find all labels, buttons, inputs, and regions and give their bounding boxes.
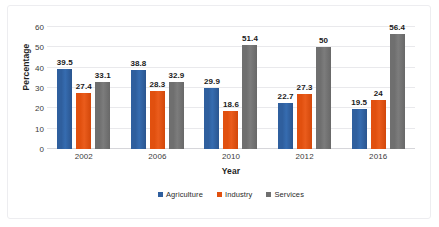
x-axis-title: Year — [47, 166, 415, 176]
bar-group: 39.527.433.1 — [47, 27, 121, 149]
bar-slot: 50 — [316, 27, 331, 149]
bar-services-2012[interactable] — [316, 47, 331, 149]
bar-value-label: 50 — [319, 36, 328, 45]
bar-agriculture-2012[interactable] — [278, 103, 293, 149]
bar-services-2006[interactable] — [169, 82, 184, 149]
bar-slot: 18.6 — [223, 27, 238, 149]
y-axis-tick: 50 — [24, 43, 44, 52]
legend-label: Services — [274, 190, 304, 199]
bar-value-label: 27.3 — [297, 83, 313, 92]
bar-slot: 51.4 — [242, 27, 257, 149]
bar-agriculture-2002[interactable] — [57, 69, 72, 149]
y-axis-tick: 20 — [24, 104, 44, 113]
bar-slot: 38.8 — [131, 27, 146, 149]
x-axis-tick-2016: 2016 — [369, 152, 387, 161]
bar-value-label: 19.5 — [351, 98, 367, 107]
bar-slot: 29.9 — [204, 27, 219, 149]
bar-group: 29.918.651.4 — [194, 27, 268, 149]
bar-slot: 56.4 — [390, 27, 405, 149]
y-axis-tick: 40 — [24, 63, 44, 72]
x-axis-tick-2012: 2012 — [295, 152, 313, 161]
bar-group: 19.52456.4 — [341, 27, 415, 149]
y-axis-tick: 0 — [24, 145, 44, 154]
bar-agriculture-2016[interactable] — [352, 109, 367, 149]
bar-value-label: 33.1 — [95, 71, 111, 80]
legend-label: Industry — [225, 190, 252, 199]
bar-slot: 27.3 — [297, 27, 312, 149]
bar-value-label: 56.4 — [389, 23, 405, 32]
bar-value-label: 28.3 — [149, 80, 165, 89]
legend-swatch-icon — [158, 192, 163, 197]
bar-industry-2002[interactable] — [76, 93, 91, 149]
bar-value-label: 38.8 — [130, 59, 146, 68]
bar-services-2016[interactable] — [390, 34, 405, 149]
legend-swatch-icon — [266, 192, 271, 197]
bar-slot: 24 — [371, 27, 386, 149]
bar-industry-2006[interactable] — [150, 91, 165, 149]
legend-swatch-icon — [217, 192, 222, 197]
y-axis-tick: 60 — [24, 23, 44, 32]
bar-slot: 22.7 — [278, 27, 293, 149]
bar-group: 38.828.332.9 — [121, 27, 195, 149]
bar-value-label: 32.9 — [168, 71, 184, 80]
bar-slot: 19.5 — [352, 27, 367, 149]
bar-value-label: 24 — [374, 89, 383, 98]
bar-agriculture-2006[interactable] — [131, 70, 146, 149]
legend-item-services[interactable]: Services — [266, 190, 304, 199]
y-axis-tick: 30 — [24, 84, 44, 93]
bar-slot: 32.9 — [169, 27, 184, 149]
bar-industry-2010[interactable] — [223, 111, 238, 149]
bar-value-label: 51.4 — [242, 34, 258, 43]
x-axis-tick-2002: 2002 — [75, 152, 93, 161]
bar-services-2010[interactable] — [242, 45, 257, 150]
legend-item-industry[interactable]: Industry — [217, 190, 252, 199]
plot-area: 39.527.433.138.828.332.929.918.651.422.7… — [47, 27, 415, 149]
bar-slot: 27.4 — [76, 27, 91, 149]
bar-slot: 39.5 — [57, 27, 72, 149]
bar-industry-2012[interactable] — [297, 94, 312, 150]
y-axis-tick: 10 — [24, 124, 44, 133]
bar-slot: 28.3 — [150, 27, 165, 149]
chart-legend: AgricultureIndustryServices — [47, 190, 415, 199]
x-axis-tick-labels: 20022006201020122016 — [47, 152, 415, 164]
bar-industry-2016[interactable] — [371, 100, 386, 149]
bar-value-label: 39.5 — [57, 58, 73, 67]
bar-agriculture-2010[interactable] — [204, 88, 219, 149]
legend-label: Agriculture — [166, 190, 203, 199]
bar-services-2002[interactable] — [95, 82, 110, 149]
bar-value-label: 29.9 — [204, 77, 220, 86]
bar-slot: 33.1 — [95, 27, 110, 149]
bar-value-label: 18.6 — [223, 100, 239, 109]
x-axis-tick-2010: 2010 — [222, 152, 240, 161]
bar-value-label: 27.4 — [76, 82, 92, 91]
x-axis-tick-2006: 2006 — [148, 152, 166, 161]
legend-item-agriculture[interactable]: Agriculture — [158, 190, 203, 199]
bar-group: 22.727.350 — [268, 27, 342, 149]
bar-chart: Percentage 0102030405060 39.527.433.138.… — [0, 0, 439, 227]
bar-value-label: 22.7 — [278, 92, 294, 101]
y-axis-tick-labels: 0102030405060 — [20, 27, 44, 149]
